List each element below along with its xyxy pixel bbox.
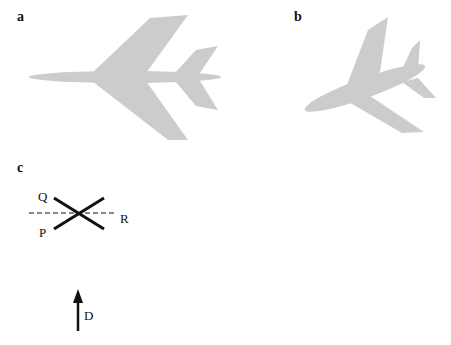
label-d: D: [84, 308, 93, 324]
aircraft-a-icon: [29, 15, 221, 140]
label-q: Q: [38, 189, 47, 205]
label-p: P: [39, 225, 46, 241]
direction-arrow-icon: [73, 289, 83, 331]
label-r: R: [120, 211, 129, 227]
figure-canvas: [0, 0, 451, 345]
aircraft-b-icon: [301, 17, 436, 133]
